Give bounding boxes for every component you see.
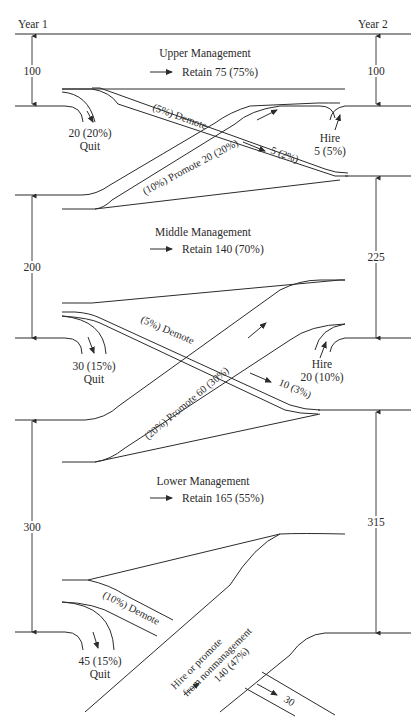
upper-year2-count: 100 (367, 65, 385, 77)
middle-quit-value: 30 (15%) (72, 360, 115, 373)
upper-demote-upper-edge (92, 88, 348, 173)
demote-out-upper-edge (262, 672, 335, 715)
middle-promote-label: (10%) Promote 20 (20%) (141, 137, 241, 198)
upper-title: Upper Management (159, 47, 251, 60)
lower-retain-upper-edge (95, 414, 320, 462)
middle-hire-inner-curve (330, 338, 345, 352)
middle-quit-label: Quit (84, 373, 105, 385)
demote-out-arrow-icon (257, 684, 277, 695)
demote-arrow-icon (250, 373, 271, 382)
lower-promote-channel: (20%) Promote 60 (30%) (15, 280, 345, 462)
upper-hire-curve (330, 106, 345, 120)
manpower-flow-diagram: Year 1 Year 2 100 100 Upper Management R… (0, 0, 411, 725)
upper-hire-value: 5 (5%) (314, 145, 346, 158)
middle-retain: Retain 140 (70%) (182, 243, 264, 256)
lower-demote-upper-edge (88, 580, 173, 620)
quit-arrow-icon (88, 337, 94, 353)
upper-demote-value: 5 (2%) (269, 145, 301, 166)
upper-year1-count: 100 (23, 65, 41, 77)
upper-quit-value: 20 (20%) (68, 127, 111, 140)
year1-label: Year 1 (18, 18, 48, 30)
lower-promote-upper-edge (15, 280, 345, 420)
upper-quit-label: Quit (80, 140, 101, 152)
lower-retain-lower-edge (62, 534, 345, 581)
middle-hire-label: Hire (312, 358, 332, 370)
hire-arrow-icon (320, 342, 326, 358)
middle-retain-upper-edge (95, 180, 340, 209)
middle-left-lower-edge (15, 338, 82, 354)
lower-year2-count: 315 (367, 516, 385, 528)
middle-quit-outer-edge (62, 316, 106, 354)
lower-demote-value: 30 (282, 693, 297, 708)
lower-year1-count: 300 (23, 521, 41, 533)
lower-quit-outer-edge (62, 602, 114, 650)
lower-quit-label: Quit (90, 668, 111, 680)
middle-demote-label: (5%) Demote (139, 314, 196, 347)
promote-arrow-icon (248, 323, 266, 338)
middle-year2-count: 225 (367, 251, 385, 263)
promote-arrow-icon (257, 110, 277, 120)
lower-title: Lower Management (157, 475, 251, 488)
lower-retain: Retain 165 (55%) (182, 492, 264, 505)
year2-label: Year 2 (358, 18, 388, 30)
lower-left-lower-edge (15, 632, 83, 650)
lower-quit-value: 45 (15%) (78, 655, 121, 668)
middle-title: Middle Management (155, 226, 252, 239)
upper-left-lower-edge (15, 106, 83, 122)
middle-retain-lower-edge (62, 280, 345, 303)
lower-promote-label: (20%) Promote 60 (30%) (142, 364, 232, 442)
lower-management-band: 300 315 Lower Management Retain 165 (55%… (15, 412, 411, 716)
hire-arrow-icon (335, 115, 340, 130)
upper-hire-label: Hire (320, 132, 340, 144)
lower-demote-label: (10%) Demote (101, 589, 162, 628)
upper-demote-label: (5%) Demote (151, 102, 209, 133)
quit-arrow-icon (93, 632, 98, 648)
middle-hire-curve (315, 324, 345, 350)
upper-retain: Retain 75 (75%) (182, 66, 258, 79)
middle-hire-value: 20 (10%) (300, 371, 343, 384)
middle-year1-count: 200 (23, 261, 41, 273)
